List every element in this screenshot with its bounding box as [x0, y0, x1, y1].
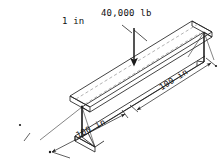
dimension-right-line [137, 63, 211, 110]
dot-far-right [215, 65, 217, 67]
dot-near-bottom [49, 151, 51, 153]
beam-diagram-svg: 1 in 40,000 lb 100 in 100 in [0, 0, 219, 162]
load-label: 40,000 lb [101, 8, 152, 18]
far-support-tie-right [204, 32, 214, 60]
dimension-left-label: 100 in [74, 117, 107, 140]
top-flange-dashed-centerline-upper [76, 24, 198, 99]
offset-leader-tick [134, 30, 147, 41]
top-flange-upper-face [70, 21, 212, 107]
beam-loading-figure: 1 in 40,000 lb 100 in 100 in [0, 0, 219, 162]
hidden-construction-lines [76, 24, 200, 107]
dot-near-flange-corner [81, 106, 84, 109]
dimension-right-witness-far [206, 58, 216, 66]
offset-leader-line [122, 25, 132, 33]
dimension-left-witness-near [24, 133, 30, 141]
offset-label: 1 in [62, 16, 84, 26]
far-end-web-bottom-junction [197, 61, 204, 66]
dimension-right-witness-near [130, 105, 138, 112]
dot-near-lower-left [19, 124, 21, 126]
dimension-left-extension [52, 152, 70, 158]
